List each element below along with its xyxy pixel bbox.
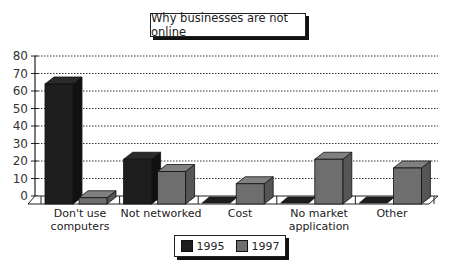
x-label-not-networked: Not networked <box>116 207 206 220</box>
y-tick-label: 80 <box>13 49 28 63</box>
bar-1995-0 <box>45 84 73 204</box>
x-label-cost: Cost <box>200 207 280 220</box>
legend-swatch-1997 <box>236 240 248 252</box>
bar-1997-2 <box>236 184 264 204</box>
y-tick-label: 60 <box>13 84 28 98</box>
x-label-other: Other <box>357 207 427 220</box>
legend-item-1997: 1997 <box>236 240 280 253</box>
x-label-line: Other <box>357 207 427 220</box>
bar-1997-1 <box>158 172 186 205</box>
x-label-no-market-application: No market application <box>274 207 364 233</box>
x-label-line: computers <box>40 220 120 233</box>
bar-side-1995-0 <box>73 77 82 204</box>
legend-label-1997: 1997 <box>252 240 280 253</box>
y-tick-label: 40 <box>13 119 28 133</box>
y-tick-label: 30 <box>13 137 28 151</box>
legend-swatch-1995 <box>181 240 193 252</box>
x-label-line: Don't use <box>40 207 120 220</box>
chart-legend: 1995 1997 <box>174 235 286 257</box>
bar-1997-0 <box>79 198 107 204</box>
y-tick-label: 70 <box>13 67 28 81</box>
y-tick-label: 50 <box>13 102 28 116</box>
x-label-line: application <box>274 220 364 233</box>
x-label-line: No market <box>274 207 364 220</box>
bar-chart-plot: 01020304050607080 <box>0 0 451 275</box>
bar-1995-1 <box>124 159 152 204</box>
y-tick-label: 10 <box>13 172 28 186</box>
bar-1997-3 <box>315 159 343 204</box>
bar-side-1997-3 <box>343 152 352 204</box>
legend-item-1995: 1995 <box>181 240 225 253</box>
y-tick-label: 20 <box>13 154 28 168</box>
x-label-dont-use-computers: Don't use computers <box>40 207 120 233</box>
bar-1997-4 <box>393 168 421 204</box>
y-tick-label: 0 <box>20 189 28 203</box>
legend-label-1995: 1995 <box>197 240 225 253</box>
x-label-line: Cost <box>200 207 280 220</box>
x-label-line: Not networked <box>116 207 206 220</box>
